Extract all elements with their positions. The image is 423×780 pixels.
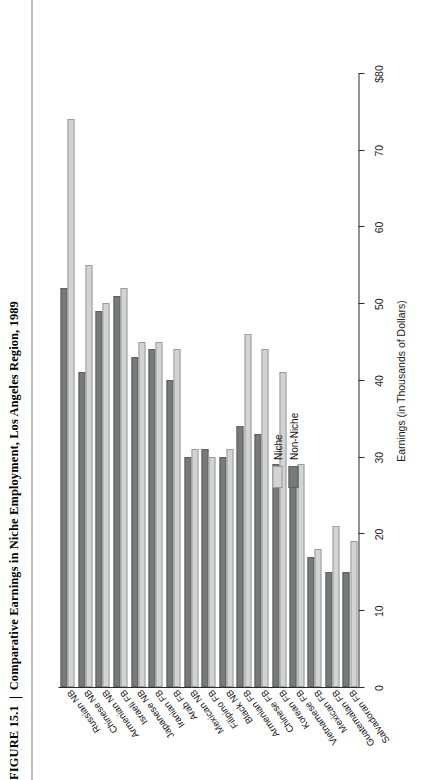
figure-title: Comparative Earnings in Niche Employment… — [6, 301, 21, 690]
bar-niche — [102, 303, 109, 687]
bar-niche — [261, 349, 268, 687]
chart-legend: NicheNon-Niche — [272, 413, 304, 488]
legend-item: Non-Niche — [288, 413, 299, 488]
bar-non-niche — [60, 288, 67, 687]
bar-niche — [191, 449, 198, 687]
bar-niche — [173, 349, 180, 687]
value-axis-tick-label: 70 — [372, 145, 384, 157]
bar-non-niche — [254, 434, 261, 687]
bar-niche — [155, 342, 162, 687]
value-axis-tick — [358, 380, 364, 381]
bar-niche — [244, 334, 251, 687]
bar-group — [129, 74, 147, 687]
bar-group — [340, 74, 358, 687]
value-axis-tick — [358, 457, 364, 458]
value-axis-tick-label: 10 — [372, 605, 384, 617]
bar-non-niche — [131, 357, 138, 687]
figure-caption: FIGURE 15.1 Comparative Earnings in Nich… — [0, 0, 26, 780]
figure-rotated-canvas: FIGURE 15.1 Comparative Earnings in Nich… — [0, 0, 423, 780]
bar-group — [323, 74, 341, 687]
bar-niche — [85, 265, 92, 687]
bar-non-niche — [307, 557, 314, 687]
value-axis-tick-label: 20 — [372, 529, 384, 541]
bar-group — [76, 74, 94, 687]
value-axis-tick — [358, 150, 364, 151]
bar-niche — [120, 288, 127, 687]
bar-group — [146, 74, 164, 687]
bar-niche — [314, 549, 321, 687]
bar-group — [93, 74, 111, 687]
value-axis-tick-label: 30 — [372, 452, 384, 464]
value-axis-tick-label: 60 — [372, 222, 384, 234]
bar-niche — [226, 449, 233, 687]
value-axis-tick-label: 0 — [372, 685, 384, 691]
bar-non-niche — [148, 349, 155, 687]
bar-group — [305, 74, 323, 687]
figure-page: FIGURE 15.1 Comparative Earnings in Nich… — [0, 0, 423, 780]
bar-non-niche — [201, 449, 208, 687]
chart-plot-area: $80706050403020100 Russian NBChinese NBA… — [58, 74, 358, 688]
bar-non-niche — [184, 457, 191, 687]
legend-swatch-nonniche — [288, 466, 298, 488]
bar-group — [199, 74, 217, 687]
legend-label: Niche — [272, 434, 283, 460]
bar-niche — [350, 541, 357, 687]
value-axis-tick-label: $80 — [372, 65, 384, 83]
caption-divider — [9, 697, 22, 698]
bar-non-niche — [113, 296, 120, 687]
bar-non-niche — [325, 572, 332, 687]
bar-niche — [67, 119, 74, 687]
value-axis-tick — [358, 73, 364, 74]
bar-niche — [138, 342, 145, 687]
value-axis-tick-label: 40 — [372, 375, 384, 387]
bar-non-niche — [166, 380, 173, 687]
value-axis-title: Earnings (in Thousands of Dollars) — [394, 74, 406, 688]
legend-swatch-niche — [272, 466, 282, 488]
bar-group — [111, 74, 129, 687]
value-axis-tick — [358, 303, 364, 304]
legend-label: Non-Niche — [288, 413, 299, 460]
value-axis-tick-label: 50 — [372, 298, 384, 310]
caption-rule — [31, 0, 32, 780]
bar-non-niche — [95, 311, 102, 687]
value-axis-tick — [358, 687, 364, 688]
bar-non-niche — [289, 487, 296, 687]
bar-non-niche — [78, 372, 85, 687]
bar-non-niche — [236, 426, 243, 687]
bar-group — [217, 74, 235, 687]
bar-niche — [332, 526, 339, 687]
bar-group — [270, 74, 288, 687]
value-axis-tick — [358, 227, 364, 228]
legend-item: Niche — [272, 413, 283, 488]
bar-niche — [208, 457, 215, 687]
bar-group — [252, 74, 270, 687]
bar-group — [287, 74, 305, 687]
bar-non-niche — [219, 457, 226, 687]
bar-group — [182, 74, 200, 687]
bar-group — [58, 74, 76, 687]
figure-number: FIGURE 15.1 — [6, 705, 21, 780]
bar-non-niche — [342, 572, 349, 687]
bar-non-niche — [272, 464, 279, 687]
bar-niche — [297, 464, 304, 687]
value-axis-tick — [358, 534, 364, 535]
category-axis-line — [58, 687, 358, 688]
bar-group — [164, 74, 182, 687]
bar-group — [234, 74, 252, 687]
value-axis-tick — [358, 610, 364, 611]
